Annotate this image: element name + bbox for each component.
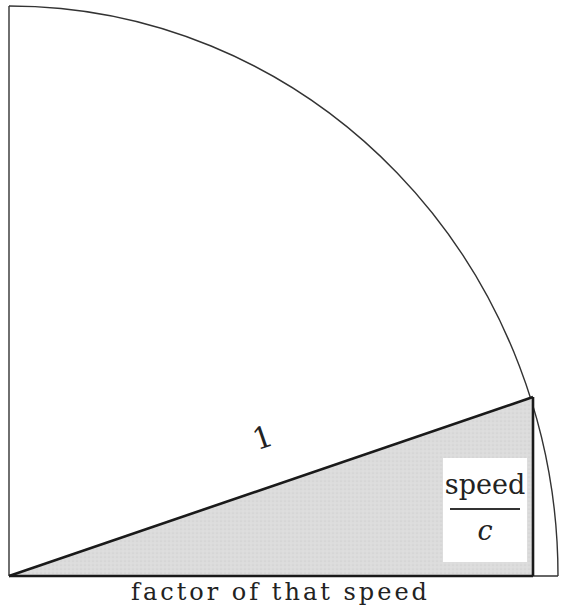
base-label: factor of that speed [0,578,561,606]
fraction-numerator: speed [443,470,527,500]
fraction-bar [450,508,520,510]
speed-over-c-label: speed c [443,458,527,562]
fraction-denominator: c [443,516,527,546]
